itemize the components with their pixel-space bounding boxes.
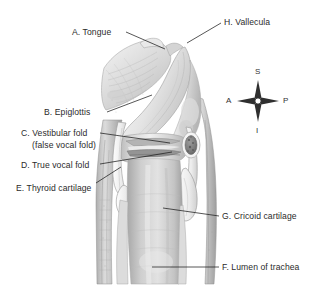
compass-label-posterior: P — [283, 96, 288, 105]
label-vestibular-fold: C. Vestibular fold — [21, 128, 87, 138]
compass-label-anterior: A — [226, 96, 231, 105]
compass-label-inferior: I — [256, 126, 258, 135]
label-cricoid-cartilage: G. Cricoid cartilage — [222, 211, 297, 221]
label-trachea-lumen: F. Lumen of trachea — [222, 262, 299, 272]
label-thyroid-cartilage: E. Thyroid cartilage — [16, 183, 91, 193]
compass-label-superior: S — [255, 67, 260, 76]
label-vestibular-fold-alt: (false vocal fold) — [32, 140, 96, 150]
label-tongue: A. Tongue — [72, 27, 111, 37]
label-epiglottis: B. Epiglottis — [44, 107, 90, 117]
compass-star-icon — [237, 80, 279, 122]
label-vallecula: H. Vallecula — [224, 17, 270, 27]
label-true-vocal-fold: D. True vocal fold — [21, 160, 89, 170]
anatomy-figure: S I A P A. Tongue H. Vallecula B. Epiglo… — [0, 0, 321, 290]
